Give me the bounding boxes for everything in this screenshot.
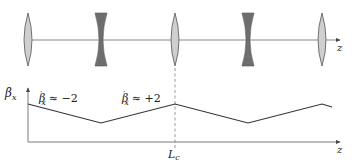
beam-axis-z-label: z bbox=[336, 42, 343, 53]
beta-curve bbox=[28, 104, 332, 123]
y-axis-label: βx bbox=[4, 86, 17, 102]
cell-length-label: Lc bbox=[167, 148, 180, 162]
beta-plot-panel: βx z Lc β′x≈ −2 β′x≈ +2 bbox=[4, 86, 343, 162]
slope-annotation-positive: β′x≈ +2 bbox=[121, 89, 161, 107]
focusing-lens-icon bbox=[171, 13, 179, 66]
focusing-lens-icon bbox=[24, 13, 32, 66]
lattice-panel: z bbox=[24, 13, 343, 66]
focusing-lens-icon bbox=[318, 13, 326, 66]
x-axis-z-label: z bbox=[336, 144, 343, 155]
lattice-beta-diagram: z βx z Lc β′x≈ −2 β′x≈ +2 bbox=[0, 0, 356, 163]
slope-annotation-negative: β′x≈ −2 bbox=[38, 89, 78, 107]
